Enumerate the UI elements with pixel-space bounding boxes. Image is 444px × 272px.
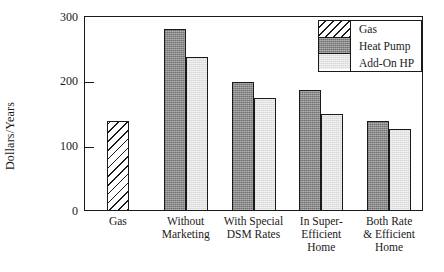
legend-swatch-gas [319, 21, 350, 37]
y-axis-title: Dollars/Years [0, 0, 20, 272]
y-tick-label-100: 100 [38, 139, 78, 154]
bar-heat-pump-both-rate-efficient-home [367, 121, 389, 211]
legend-swatches [319, 21, 351, 71]
y-tick-mark-200 [85, 82, 94, 83]
legend: Gas Heat Pump Add-On HP [318, 20, 422, 72]
bar-chart: Dollars/Years 0 100 200 300 GasWithoutMa… [0, 0, 444, 272]
y-tick-mark-100 [85, 147, 94, 148]
legend-swatch-heat-pump [319, 37, 350, 53]
bar-add-on-hp-in-super-efficient-home [321, 114, 343, 212]
category-label-with-special-dsm-rates: With SpecialDSM Rates [220, 215, 288, 241]
bar-add-on-hp-with-special-dsm-rates [254, 98, 276, 211]
bar-heat-pump-without-marketing [164, 29, 186, 211]
bar-gas-gas [107, 121, 129, 211]
y-tick-label-300: 300 [38, 10, 78, 25]
category-label-without-marketing: WithoutMarketing [152, 215, 220, 241]
category-label-in-super-efficient-home: In Super-EfficientHome [287, 215, 355, 254]
legend-label-gas: Gas [351, 21, 421, 37]
bar-add-on-hp-without-marketing [186, 57, 208, 211]
bar-heat-pump-in-super-efficient-home [299, 90, 321, 211]
legend-label-heat-pump: Heat Pump [351, 37, 421, 54]
category-label-gas: Gas [84, 215, 152, 228]
legend-label-add-on-hp: Add-On HP [351, 54, 421, 71]
category-label-both-rate-efficient-home: Both Rate& EfficientHome [355, 215, 423, 254]
legend-labels: Gas Heat Pump Add-On HP [351, 21, 421, 71]
y-axis-tick-labels: 0 100 200 300 [38, 0, 78, 272]
legend-swatch-add-on-hp [319, 53, 350, 69]
bar-heat-pump-with-special-dsm-rates [232, 82, 254, 211]
y-tick-label-0: 0 [38, 204, 78, 219]
y-tick-label-200: 200 [38, 74, 78, 89]
bar-add-on-hp-both-rate-efficient-home [389, 129, 411, 211]
